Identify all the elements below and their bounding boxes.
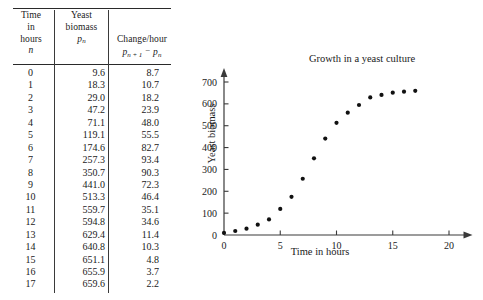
table-cell-n: 13 — [9, 229, 52, 241]
table-cell-biomass: 640.8 — [55, 241, 105, 253]
table-row: 11559.735.1 — [13, 204, 173, 216]
table-row: 13629.411.4 — [13, 229, 173, 241]
table-cell-biomass: 441.0 — [55, 179, 105, 191]
table-body: 09.68.7118.310.7229.018.2347.223.9471.14… — [13, 67, 173, 291]
table-cell-n: 14 — [9, 241, 52, 253]
table-row: 9441.072.3 — [13, 179, 173, 191]
table-row: 229.018.2 — [13, 92, 173, 104]
table-cell-n: 1 — [9, 79, 52, 91]
table-cell-biomass: 47.2 — [55, 104, 105, 116]
yeast-growth-scatter-chart: Growth in a yeast culture Yeast biomass … — [190, 48, 480, 288]
table-top-rule — [13, 8, 171, 9]
table-cell-n: 6 — [9, 142, 52, 154]
table-cell-change: 48.0 — [109, 117, 159, 129]
table-row: 347.223.9 — [13, 104, 173, 116]
table-cell-n: 3 — [9, 104, 52, 116]
table-cell-n: 2 — [9, 92, 52, 104]
table-cell-change: 23.9 — [109, 104, 159, 116]
table-cell-change: 2.2 — [109, 278, 159, 290]
chart-data-point — [301, 177, 305, 181]
chart-data-point — [334, 121, 338, 125]
table-cell-change: 72.3 — [109, 179, 159, 191]
table-header-time-line-1: Time — [9, 10, 53, 22]
chart-y-tick-label: 500 — [202, 120, 217, 131]
table-header-rule — [13, 64, 171, 65]
table-cell-change: 11.4 — [109, 229, 159, 241]
table-cell-n: 4 — [9, 117, 52, 129]
table-row: 471.148.0 — [13, 117, 173, 129]
chart-data-point — [402, 90, 406, 94]
chart-data-point — [346, 111, 350, 115]
chart-y-tick-label: 100 — [202, 208, 217, 219]
chart-x-tick-label: 15 — [388, 240, 398, 251]
table-cell-biomass: 71.1 — [55, 117, 105, 129]
table-header-change-line-1: Change/hour — [109, 34, 175, 46]
table-row: 12594.834.6 — [13, 216, 173, 228]
table-row: 09.68.7 — [13, 67, 173, 79]
table-cell-change: 10.7 — [109, 79, 159, 91]
table-cell-n: 15 — [9, 254, 52, 266]
chart-y-tick-label: 300 — [202, 164, 217, 175]
chart-y-tick-label: 200 — [202, 186, 217, 197]
table-cell-n: 11 — [9, 204, 52, 216]
chart-x-tick-label: 0 — [222, 240, 227, 251]
table-row: 6174.682.7 — [13, 142, 173, 154]
table-cell-biomass: 9.6 — [55, 67, 105, 79]
table-cell-change: 4.8 — [109, 254, 159, 266]
chart-data-point — [379, 93, 383, 97]
table-cell-n: 8 — [9, 167, 52, 179]
chart-plot-area: 010020030040050060070005101520 — [190, 48, 480, 258]
chart-y-tick-label: 0 — [212, 230, 217, 241]
table-cell-n: 10 — [9, 191, 52, 203]
chart-data-point — [357, 103, 361, 107]
table-row: 14640.810.3 — [13, 241, 173, 253]
table-cell-n: 9 — [9, 179, 52, 191]
table-cell-change: 46.4 — [109, 191, 159, 203]
table-cell-change: 34.6 — [109, 216, 159, 228]
table-cell-biomass: 257.3 — [55, 154, 105, 166]
chart-x-tick-label: 10 — [332, 240, 342, 251]
chart-y-axis-arrow-icon — [221, 68, 228, 77]
chart-data-point — [267, 217, 271, 221]
table-row: 10513.346.4 — [13, 191, 173, 203]
table-cell-biomass: 513.3 — [55, 191, 105, 203]
chart-x-tick-label: 5 — [278, 240, 283, 251]
table-cell-change: 93.4 — [109, 154, 159, 166]
table-cell-change: 55.5 — [109, 129, 159, 141]
table-row: 8350.790.3 — [13, 167, 173, 179]
table-header-change-symbol: pn + 1 − pn — [109, 45, 175, 61]
table-cell-change: 18.2 — [109, 92, 159, 104]
table-cell-biomass: 119.1 — [55, 129, 105, 141]
table-header-biomass-line-2: biomass — [55, 22, 108, 34]
chart-data-point — [244, 227, 248, 231]
table-cell-change: 90.3 — [109, 167, 159, 179]
table-row: 5119.155.5 — [13, 129, 173, 141]
figure-root: Time in hours n Yeast biomass pn Change/… — [0, 0, 483, 300]
chart-y-tick-label: 400 — [202, 142, 217, 153]
table-header-biomass: Yeast biomass pn — [55, 10, 108, 48]
chart-data-point — [413, 89, 417, 93]
chart-x-axis-arrow-icon — [464, 232, 473, 239]
chart-data-point — [278, 207, 282, 211]
chart-data-point — [233, 229, 237, 233]
table-cell-change: 8.7 — [109, 67, 159, 79]
chart-y-tick-label: 600 — [202, 98, 217, 109]
table-header-time-line-3: hours — [9, 34, 53, 46]
table-header-biomass-line-1: Yeast — [55, 10, 108, 22]
table-cell-change: 3.7 — [109, 266, 159, 278]
table-header-change: Change/hour pn + 1 − pn — [109, 10, 175, 62]
table-cell-biomass: 655.9 — [55, 266, 105, 278]
chart-y-tick-label: 700 — [202, 77, 217, 88]
table-cell-n: 17 — [9, 278, 52, 290]
table-cell-n: 7 — [9, 154, 52, 166]
table-cell-biomass: 350.7 — [55, 167, 105, 179]
table-cell-biomass: 629.4 — [55, 229, 105, 241]
chart-data-point — [256, 223, 260, 227]
chart-data-point — [323, 137, 327, 141]
table-cell-change: 82.7 — [109, 142, 159, 154]
chart-data-point — [222, 231, 226, 235]
table-header-biomass-symbol: pn — [55, 34, 108, 48]
table-cell-biomass: 651.1 — [55, 254, 105, 266]
table-cell-biomass: 174.6 — [55, 142, 105, 154]
chart-data-point — [391, 91, 395, 95]
